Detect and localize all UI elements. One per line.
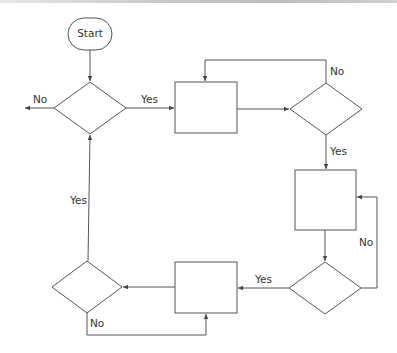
decision-3-no-label: No [359,236,373,248]
flowchart-canvas: Start No Yes No Yes No Yes Yes No [0,0,397,353]
decision-4[interactable] [52,261,122,313]
edge-decision-4-yes [88,135,90,261]
edge-decision-4-no [87,313,206,335]
decision-4-no-label: No [90,317,104,329]
start-label: Start [77,27,103,39]
process-3[interactable] [175,262,237,313]
edge-decision-2-no [205,60,326,83]
start-node[interactable]: Start [68,18,112,50]
process-1[interactable] [175,82,237,133]
decision-2[interactable] [290,83,362,135]
decision-3[interactable] [289,262,361,314]
decision-2-no-label: No [330,65,344,77]
decision-3-yes-label: Yes [254,273,272,285]
decision-1[interactable] [54,82,126,134]
process-2[interactable] [295,170,356,230]
decision-2-yes-label: Yes [329,145,347,157]
decision-1-yes-label: Yes [140,93,158,105]
decision-1-no-label: No [33,93,47,105]
decision-4-yes-label: Yes [69,194,87,206]
